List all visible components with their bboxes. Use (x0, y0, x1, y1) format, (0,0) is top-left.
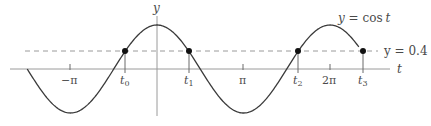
t-axis-label: t (397, 62, 402, 76)
cosine-diagram: y t −π π 2π t0 t1 t2 t3 y = cost y = 0.4 (0, 0, 431, 126)
point-t1 (186, 48, 192, 54)
y-axis-label: y (152, 1, 160, 15)
point-t0 (122, 48, 128, 54)
tick-label-t0: t0 (120, 74, 130, 88)
curve-label-fn: cos (362, 11, 382, 25)
t3-sub: 3 (362, 79, 367, 88)
curve-label: y = cost (337, 11, 391, 25)
curve-label-lhs: y = (337, 11, 362, 25)
curve-label-arg: t (386, 11, 391, 25)
t0-sub: 0 (124, 79, 129, 88)
tick-label-neg-pi: −π (61, 74, 77, 87)
tick-label-t1: t1 (184, 74, 194, 88)
t2-sub: 2 (297, 79, 302, 88)
tick-label-t2: t2 (293, 74, 303, 88)
tick-label-two-pi: 2π (322, 74, 336, 87)
t1-sub: 1 (188, 79, 193, 88)
point-t2 (295, 48, 301, 54)
tick-label-pi: π (239, 74, 246, 87)
point-t3 (360, 48, 366, 54)
drop-lines (125, 51, 363, 73)
tick-label-t3: t3 (358, 74, 368, 88)
threshold-label: y = 0.4 (383, 44, 428, 58)
